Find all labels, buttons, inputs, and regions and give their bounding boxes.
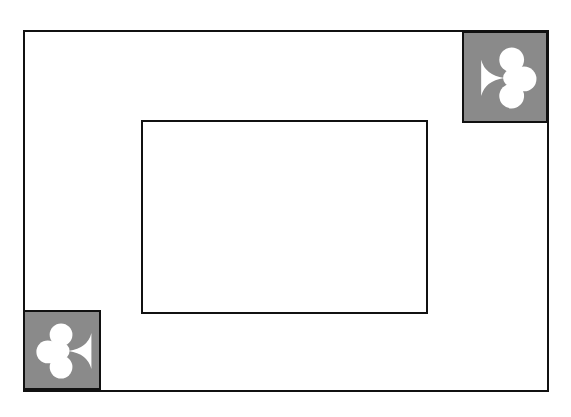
corner-bottom-left — [23, 310, 101, 390]
inner-rectangle — [141, 120, 428, 314]
corner-top-right — [462, 31, 548, 123]
club-icon — [25, 312, 99, 388]
club-icon — [464, 33, 546, 121]
